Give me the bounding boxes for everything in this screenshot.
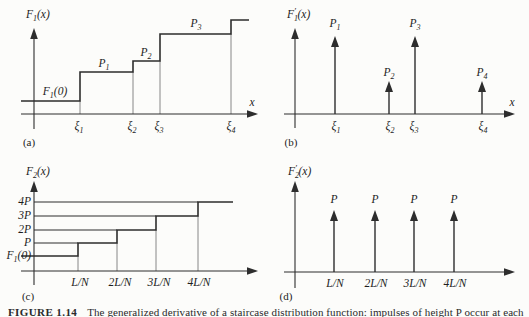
x-axis-label: x [248, 96, 255, 108]
y-tick-label: F1(0) [6, 249, 32, 264]
panel-tag: (c) [22, 290, 35, 303]
figure-page: ξ1ξ2ξ3ξ4F1(0)P1P2P3F1(x)x(a)P1P2P3P4ξ1ξ2… [0, 0, 529, 317]
y-tick-label: 3P [17, 209, 31, 221]
x-axis-arrowhead [247, 110, 258, 118]
impulse-arrowhead [371, 210, 379, 221]
x-tick-label: ξ1 [75, 120, 84, 135]
y-axis-arrowhead [30, 28, 38, 39]
y-axis-label: F1′(x) [286, 6, 310, 24]
impulse-value-label: P2 [382, 66, 394, 81]
y-axis-arrowhead [291, 181, 299, 192]
panel-tag: (d) [280, 290, 293, 303]
panel-tag: (a) [23, 136, 36, 149]
impulse-arrowhead [410, 210, 418, 221]
x-tick-label: ξ2 [386, 120, 395, 135]
x-tick-label: L/N [70, 276, 90, 288]
y-axis-label: F2(x) [25, 165, 50, 180]
impulse-value-label: P [329, 193, 337, 205]
x-tick-label: ξ2 [128, 120, 137, 135]
x-tick-label: 3L/N [146, 276, 171, 288]
impulse-value-label: P [449, 193, 457, 205]
step-value-label: P1 [97, 57, 109, 72]
y-axis-arrowhead [291, 28, 299, 39]
x-axis-arrowhead [504, 110, 515, 118]
figure-caption: FIGURE 1.14The generalized derivative of… [8, 306, 525, 317]
impulse-value-label: P1 [328, 17, 340, 32]
x-axis-arrowhead [504, 268, 515, 276]
panel-b-plot: P1P2P3P4ξ1ξ2ξ3ξ4F1′(x)x(b) [264, 0, 529, 155]
impulse-value-label: P4 [475, 66, 487, 81]
x-tick-label: 2L/N [364, 277, 388, 289]
impulse-arrowhead [331, 36, 339, 47]
x-tick-label: 3L/N [402, 277, 427, 289]
impulse-arrowhead [450, 210, 458, 221]
figure-caption-text: The generalized derivative of a staircas… [87, 306, 525, 317]
impulse-value-label: P [409, 193, 417, 205]
panel-d-plot: PPPPL/N2L/N3L/N4L/NF2′(x)(d) [264, 155, 529, 305]
y-axis-label: F1(x) [25, 8, 50, 23]
impulse-arrowhead [478, 81, 486, 92]
x-tick-label: ξ4 [479, 120, 488, 135]
y-axis-label: F2′(x) [287, 163, 311, 181]
step-value-label: P3 [189, 17, 201, 32]
x-tick-label: L/N [325, 277, 345, 289]
y-tick-label: P [23, 236, 31, 248]
panel-a-plot: ξ1ξ2ξ3ξ4F1(0)P1P2P3F1(x)x(a) [0, 0, 264, 155]
x-tick-label: ξ3 [155, 120, 164, 135]
x-tick-label: ξ4 [227, 120, 236, 135]
x-tick-label: ξ3 [410, 120, 419, 135]
panel-tag: (b) [285, 136, 298, 149]
panel-c-plot: L/N2L/N3L/N4L/N4P3P2PPF1(0)F2(x)(c) [0, 155, 264, 305]
y-tick-label: 4P [18, 195, 31, 207]
x-tick-label: 4L/N [187, 276, 211, 288]
impulse-arrowhead [411, 36, 419, 47]
step-value-label: P2 [139, 46, 151, 61]
figure-caption-label: FIGURE 1.14 [8, 306, 77, 317]
x-tick-label: ξ1 [332, 120, 341, 135]
x-tick-label: 2L/N [108, 276, 132, 288]
step-value-label: F1(0) [42, 85, 68, 100]
impulse-value-label: P [370, 193, 378, 205]
x-axis-label: x [508, 96, 515, 108]
y-axis-arrowhead [30, 181, 38, 192]
impulse-arrowhead [385, 81, 393, 92]
x-tick-label: 4L/N [443, 277, 467, 289]
x-axis-arrowhead [247, 267, 258, 275]
impulse-arrowhead [330, 210, 338, 221]
y-tick-label: 2P [18, 223, 31, 235]
staircase-path [21, 202, 233, 256]
impulse-value-label: P3 [408, 17, 420, 32]
